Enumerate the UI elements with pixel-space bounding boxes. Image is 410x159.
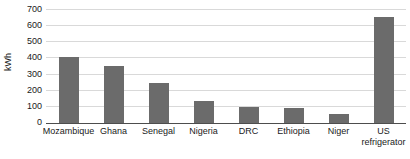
- bar: [239, 107, 259, 123]
- bar: [374, 17, 394, 123]
- y-axis-tick-label: 0: [37, 118, 42, 127]
- bar: [59, 57, 79, 123]
- x-axis-tick-label: Ghana: [100, 126, 127, 137]
- x-axis-tick-label-line: Niger: [328, 126, 350, 136]
- x-axis-tick-labels: MozambiqueGhanaSenegalNigeriaDRCEthiopia…: [46, 126, 406, 159]
- y-axis-tick-label: 300: [27, 70, 42, 79]
- y-axis-tick-label: 500: [27, 37, 42, 46]
- x-axis-tick-label: Niger: [328, 126, 350, 137]
- y-axis-title: kWh: [0, 0, 16, 124]
- x-axis-tick-label: Nigeria: [189, 126, 218, 137]
- x-axis-tick-label-line: DRC: [239, 126, 259, 136]
- x-axis-tick-label: Senegal: [142, 126, 175, 137]
- y-axis-tick-label: 100: [27, 102, 42, 111]
- x-axis-tick-label: USrefrigerator: [361, 126, 405, 148]
- plot-area: [46, 10, 406, 124]
- bar: [284, 108, 304, 123]
- x-axis-tick-label-line: Nigeria: [189, 126, 218, 136]
- x-axis-tick-label: DRC: [239, 126, 259, 137]
- x-axis-tick-label-line: Ethiopia: [277, 126, 310, 136]
- x-axis-tick-label-line: US: [377, 126, 390, 136]
- bar: [194, 101, 214, 123]
- x-axis-tick-label-line: refrigerator: [361, 137, 405, 148]
- x-axis-tick-label-line: Mozambique: [43, 126, 95, 136]
- y-axis-tick-labels: 0100200300400500600700: [16, 0, 45, 130]
- bar: [329, 114, 349, 123]
- x-axis-tick-label-line: Ghana: [100, 126, 127, 136]
- y-axis-tick-label: 200: [27, 86, 42, 95]
- y-axis-title-text: kWh: [3, 53, 13, 71]
- bar: [149, 83, 169, 123]
- bars: [46, 10, 406, 124]
- x-axis-tick-label: Mozambique: [43, 126, 95, 137]
- y-axis-tick-label: 600: [27, 21, 42, 30]
- bar-chart: kWh 0100200300400500600700 MozambiqueGha…: [0, 0, 410, 159]
- x-axis-tick-label-line: Senegal: [142, 126, 175, 136]
- y-axis-tick-label: 700: [27, 5, 42, 14]
- bar: [104, 66, 124, 123]
- y-axis-tick-label: 400: [27, 53, 42, 62]
- x-axis-tick-label: Ethiopia: [277, 126, 310, 137]
